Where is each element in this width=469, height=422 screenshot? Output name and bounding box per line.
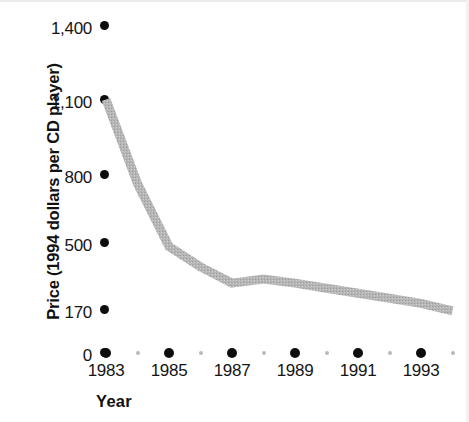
price-line-series bbox=[106, 100, 453, 311]
plot-area bbox=[0, 0, 469, 422]
cd-player-price-chart: Price (1994 dollars per CD player) 1,400… bbox=[0, 0, 469, 422]
